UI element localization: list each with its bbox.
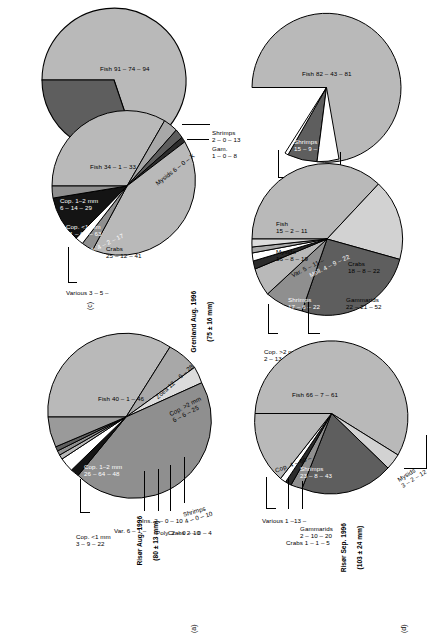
panel-a: (a) Risør Aug. 1996 (80 ± 13 mm) <box>0 398 211 641</box>
panel-d-leader-crabs <box>288 479 289 509</box>
panel-d-subtitle-text: (103 ± 24 mm) <box>356 526 363 570</box>
panel-a-label-cop-1-2: Cop. 1–2 mm 26 – 64 – 48 <box>84 463 122 477</box>
panel-a-pie-svg <box>36 327 216 507</box>
panel-a-label-various: Var. 6 – 1 – <box>114 527 146 534</box>
panel-d-label-fish: Fish 66 – 7 – 61 <box>292 391 338 398</box>
panel-b-label-cop-1-2: Cop. 1–2 mm 6 – 14 – 29 <box>60 197 98 211</box>
panel-a-pie: Fish 40 – 1 – 46 Zoea 12 – 6 – 28 Cop. >… <box>36 207 216 507</box>
panel-d-leader-mysids-h <box>426 435 427 469</box>
panel-a-leader-ins <box>144 471 145 511</box>
panel-a-letter: (a) <box>190 624 197 633</box>
panel-d-letter: (d) <box>400 624 407 633</box>
panel-d-leader-various-tick <box>266 508 276 509</box>
panel-d-pie: Fish 66 – 7 – 61 Shrimps 23 – 8 – 43 Cop… <box>244 201 419 501</box>
panel-a-label-fish: Fish 40 – 1 – 46 <box>98 395 144 402</box>
panel-a-label-ins: Ins. 2 – 0 – 10 <box>142 517 183 524</box>
panel-a-leader-shrimps <box>184 457 185 503</box>
panel-b-label-fish: Fish 34 – 1 – 33 <box>90 163 136 170</box>
panel-d: (d) Risør Sep. 1996 (103 ± 24 mm) <box>210 398 421 641</box>
panel-d-title-text: Risør Sep. 1996 <box>340 523 347 572</box>
panel-d-leader-various <box>266 477 267 509</box>
panel-a-title: Risør Aug. 1996 (80 ± 13 mm) <box>128 499 168 597</box>
panel-a-label-cop-lt1: Cop. <1 mm 3 – 9 – 22 <box>76 533 111 547</box>
panel-a-label-crabs: Crabs 2 – 0 – 4 <box>168 529 212 536</box>
panel-d-leader-gammarids <box>302 481 303 509</box>
panel-a-subtitle-text: (80 ± 13 mm) <box>152 521 159 561</box>
panel-a-leader-cop-lt1 <box>80 479 81 513</box>
panel-a-leader-cop-lt1-tick <box>80 512 90 513</box>
panel-d-label-gammarids: Gammarids 2 – 10 – 20 <box>300 525 333 539</box>
panel-b-leader-shrimps <box>182 124 210 125</box>
panel-a-leader-crabs <box>170 465 171 511</box>
panel-d-label-shrimps: Shrimps 23 – 8 – 43 <box>300 465 332 479</box>
panel-a-leader-poly <box>158 469 159 511</box>
panel-d-label-crabs: Crabs 1 – 1 – 5 <box>286 539 330 546</box>
panel-b-leader-gam <box>187 139 209 140</box>
panel-d-title: Risør Sep. 1996 (103 ± 24 mm) <box>332 505 372 605</box>
panel-d-label-various: Various 1 –13 – <box>262 517 306 524</box>
